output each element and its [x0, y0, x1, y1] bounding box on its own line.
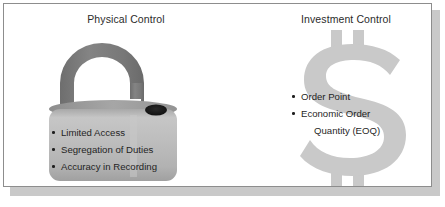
content-panel: Physical Control	[3, 3, 432, 187]
list-item: Segregation of Duties	[52, 141, 202, 158]
list-item: Quantity (EOQ)	[292, 122, 422, 139]
list-item: Accuracy in Recording	[52, 158, 202, 175]
list-item: Limited Access	[52, 124, 202, 141]
list-item: Economic Order	[292, 105, 422, 122]
physical-control-bullet-list: Limited Access Segregation of Duties Acc…	[52, 124, 202, 175]
padlock-keyhole	[145, 105, 167, 116]
column-title-investment-control: Investment Control	[282, 13, 410, 25]
slide-root: Physical Control	[0, 0, 445, 207]
column-title-physical-control: Physical Control	[66, 13, 186, 25]
list-item: Order Point	[292, 88, 422, 105]
investment-control-bullet-list: Order Point Economic Order Quantity (EOQ…	[292, 88, 422, 139]
